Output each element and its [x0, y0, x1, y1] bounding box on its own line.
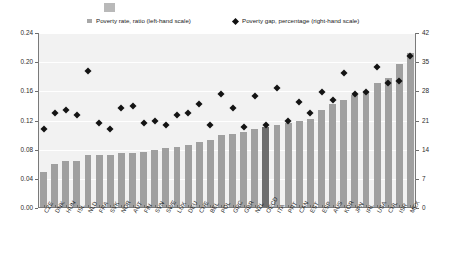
scatter-point — [40, 126, 47, 133]
y-tick-left — [35, 62, 38, 63]
scatter-point — [118, 105, 125, 112]
scatter-point — [385, 80, 392, 87]
y-tick-right — [416, 150, 419, 151]
scatter-point — [240, 124, 247, 131]
scatter-point — [62, 107, 69, 114]
y-tick-left — [35, 150, 38, 151]
y-axis-right-tick-label: 35 — [422, 59, 444, 65]
y-axis-left-tick-label: 0.20 — [3, 59, 33, 65]
scatter-point — [207, 122, 214, 129]
scatter-series-poverty-gap — [38, 33, 416, 208]
legend-item-poverty-rate: Poverty rate, ratio (left-hand scale) — [87, 18, 191, 24]
y-axis-left-line — [38, 33, 39, 208]
y-tick-right — [416, 33, 419, 34]
scatter-point — [318, 88, 325, 95]
scatter-point — [284, 117, 291, 124]
legend-label-poverty-gap: Poverty gap, percentage (right-hand scal… — [242, 18, 359, 24]
y-axis-right-tick-label: 0 — [422, 205, 444, 211]
scatter-point — [51, 109, 58, 116]
scatter-point — [151, 117, 158, 124]
scatter-point — [340, 69, 347, 76]
scatter-point — [84, 67, 91, 74]
y-axis-right-tick-label: 28 — [422, 88, 444, 94]
scatter-point — [218, 90, 225, 97]
y-axis-left-tick-label: 0.08 — [3, 147, 33, 153]
scatter-point — [173, 111, 180, 118]
x-axis-labels: CZEDNKHUNISLNLDFRASVKNORAUTFINSVNSWELUXD… — [38, 209, 416, 257]
y-axis-right-tick-label: 21 — [422, 118, 444, 124]
scatter-point — [362, 88, 369, 95]
y-axis-left-tick-label: 0.04 — [3, 176, 33, 182]
y-tick-right — [416, 91, 419, 92]
scatter-point — [229, 105, 236, 112]
scatter-point — [162, 122, 169, 129]
y-axis-left-tick-label: 0.16 — [3, 88, 33, 94]
scatter-point — [273, 84, 280, 91]
y-tick-right — [416, 179, 419, 180]
square-swatch-icon — [87, 19, 92, 23]
scatter-point — [329, 97, 336, 104]
scatter-point — [140, 119, 147, 126]
y-tick-left — [35, 121, 38, 122]
scatter-point — [407, 53, 414, 60]
y-tick-right — [416, 62, 419, 63]
y-tick-left — [35, 179, 38, 180]
y-axis-left-tick-label: 0.24 — [3, 30, 33, 36]
scatter-point — [351, 90, 358, 97]
scatter-point — [373, 63, 380, 70]
scatter-point — [95, 119, 102, 126]
poverty-chart: Poverty rate, ratio (left-hand scale) Po… — [0, 0, 451, 257]
legend-item-poverty-gap: Poverty gap, percentage (right-hand scal… — [233, 18, 359, 24]
scatter-point — [129, 103, 136, 110]
diamond-marker-icon — [232, 18, 239, 25]
plot-area — [38, 33, 416, 208]
scatter-point — [107, 126, 114, 133]
y-tick-right — [416, 121, 419, 122]
scatter-point — [251, 92, 258, 99]
scatter-point — [184, 109, 191, 116]
y-tick-left — [35, 33, 38, 34]
legend-label-poverty-rate: Poverty rate, ratio (left-hand scale) — [96, 18, 191, 24]
y-axis-right-tick-label: 7 — [422, 176, 444, 182]
scatter-point — [196, 101, 203, 108]
scatter-point — [307, 109, 314, 116]
chart-legend: Poverty rate, ratio (left-hand scale) Po… — [0, 17, 451, 30]
scatter-point — [396, 78, 403, 85]
y-axis-right-tick-label: 14 — [422, 147, 444, 153]
scatter-point — [262, 122, 269, 129]
scatter-point — [73, 111, 80, 118]
scatter-point — [296, 99, 303, 106]
y-axis-right-tick-label: 42 — [422, 30, 444, 36]
y-axis-left-tick-label: 0.00 — [3, 205, 33, 211]
stray-square-artifact — [104, 3, 115, 12]
y-axis-left-tick-label: 0.12 — [3, 118, 33, 124]
y-tick-left — [35, 91, 38, 92]
